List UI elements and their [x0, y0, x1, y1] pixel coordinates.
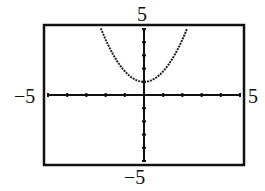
x-max-label: 5 [248, 86, 258, 106]
axes [48, 29, 240, 161]
y-max-label: 5 [137, 4, 147, 24]
x-min-label: −5 [14, 86, 35, 106]
graph-window [0, 0, 265, 191]
y-min-label: −5 [124, 167, 145, 187]
